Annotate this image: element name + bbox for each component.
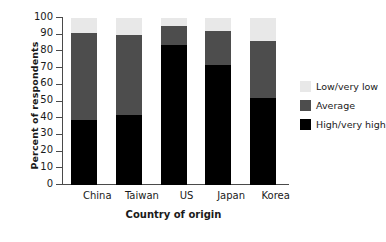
- bar-segment: [205, 18, 231, 31]
- y-tick-label: 90: [27, 27, 53, 39]
- legend-item: High/very high: [300, 116, 386, 133]
- x-axis-title: Country of origin: [62, 209, 285, 220]
- bar-segment: [205, 31, 231, 64]
- bar-segment: [116, 18, 142, 35]
- bar-segment: [250, 18, 276, 41]
- bar-segment: [116, 115, 142, 185]
- legend-swatch: [300, 81, 311, 92]
- chart-legend: Low/very lowAverageHigh/very high: [300, 78, 386, 135]
- y-tick-label: 20: [27, 144, 53, 156]
- bar-segment: [250, 41, 276, 98]
- plot-area: 0102030405060708090100 ChinaTaiwanUSJapa…: [62, 18, 285, 185]
- legend-label: High/very high: [316, 119, 386, 130]
- bars-layer: [62, 18, 285, 185]
- y-tick-label: 60: [27, 77, 53, 89]
- bar-segment: [205, 65, 231, 185]
- y-tick-label: 40: [27, 111, 53, 123]
- legend-item: Average: [300, 97, 386, 114]
- legend-item: Low/very low: [300, 78, 386, 95]
- y-tick-label: 70: [27, 61, 53, 73]
- bar-segment: [161, 45, 187, 185]
- bar-segment: [71, 18, 97, 33]
- legend-label: Average: [316, 100, 355, 111]
- bar-segment: [161, 26, 187, 44]
- x-tick-label: Korea: [241, 190, 311, 201]
- bar-segment: [116, 35, 142, 115]
- bar-segment: [71, 33, 97, 120]
- y-tick-label: 10: [27, 161, 53, 173]
- y-tick-label: 30: [27, 127, 53, 139]
- legend-swatch: [300, 100, 311, 111]
- bar-segment: [250, 98, 276, 185]
- y-tick-label: 50: [27, 94, 53, 106]
- y-tick-label: 80: [27, 44, 53, 56]
- bar-segment: [71, 120, 97, 185]
- bar-segment: [161, 18, 187, 26]
- legend-label: Low/very low: [316, 81, 378, 92]
- y-tick-label: 100: [27, 11, 53, 23]
- legend-swatch: [300, 119, 311, 130]
- y-tick-label: 0: [27, 178, 53, 190]
